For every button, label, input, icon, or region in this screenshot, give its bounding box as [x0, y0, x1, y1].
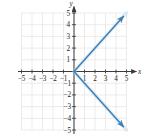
- x-tick-label: 4: [114, 75, 118, 83]
- x-tick-label: −4: [28, 75, 36, 83]
- y-tick-label: −5: [63, 127, 71, 135]
- y-tick-label: 5: [67, 10, 71, 18]
- y-axis-label: y: [69, 0, 74, 8]
- y-tick-label: 1: [67, 56, 71, 64]
- y-tick-label: 4: [67, 21, 71, 29]
- y-tick-label: −1: [63, 80, 71, 88]
- y-tick-labels-positive: 5 4 3 2 1: [67, 10, 71, 65]
- y-tick-label: −4: [63, 115, 71, 123]
- y-tick-label: −3: [63, 103, 71, 111]
- x-tick-label: −3: [39, 75, 47, 83]
- x-tick-labels-negative: −5 −4 −3 −2 −1: [18, 75, 68, 83]
- y-tick-labels-negative: −1 −2 −3 −4 −5: [63, 80, 71, 135]
- x-axis-label: x: [137, 68, 142, 76]
- x-tick-label: 3: [104, 75, 108, 83]
- x-tick-label: −5: [18, 75, 26, 83]
- y-tick-label: 3: [67, 33, 71, 41]
- x-tick-label: 2: [93, 75, 97, 83]
- graph-svg: x y −5 −4: [0, 0, 147, 140]
- x-tick-label: −2: [49, 75, 57, 83]
- x-tick-label: 5: [125, 75, 129, 83]
- coordinate-graph-figure: x y −5 −4: [0, 0, 147, 140]
- x-tick-labels-positive: 1 2 3 4 5: [83, 75, 129, 83]
- y-tick-label: 2: [67, 45, 71, 53]
- y-tick-label: −2: [63, 91, 71, 99]
